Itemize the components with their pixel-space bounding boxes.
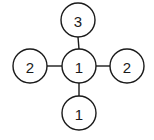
- edge-center-top: [78, 37, 79, 49]
- cross-diagram: 3 2 1 2 1: [0, 0, 154, 140]
- node-right: 2: [110, 49, 144, 83]
- node-bottom: 1: [62, 96, 96, 130]
- node-center: 1: [62, 49, 96, 83]
- node-bottom-label: 1: [75, 106, 83, 123]
- node-top-label: 3: [74, 13, 82, 30]
- node-left-label: 2: [26, 59, 34, 76]
- node-center-label: 1: [75, 59, 83, 76]
- node-right-label: 2: [123, 59, 131, 76]
- node-top: 3: [61, 3, 95, 37]
- node-left: 2: [13, 49, 47, 83]
